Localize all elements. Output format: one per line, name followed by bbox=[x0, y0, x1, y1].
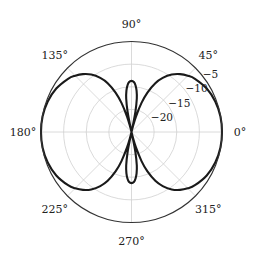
angle-label: 270° bbox=[118, 235, 145, 248]
radial-label: −5 bbox=[203, 68, 218, 80]
angle-label: 0° bbox=[234, 126, 247, 139]
angle-label: 180° bbox=[10, 126, 37, 139]
angular-tick-labels: 0°45°90°135°180°225°270°315° bbox=[10, 18, 247, 248]
radial-label: −20 bbox=[151, 111, 173, 123]
radial-label: −15 bbox=[168, 97, 190, 109]
polar-chart: 0°45°90°135°180°225°270°315° −20−15−10−5 bbox=[0, 0, 256, 257]
angle-label: 45° bbox=[198, 49, 218, 62]
angle-label: 135° bbox=[42, 49, 69, 62]
angle-label: 90° bbox=[122, 18, 142, 31]
radial-label: −10 bbox=[185, 82, 207, 94]
angle-label: 225° bbox=[42, 203, 69, 216]
radial-tick-labels: −20−15−10−5 bbox=[151, 68, 218, 124]
angle-label: 315° bbox=[195, 203, 222, 216]
